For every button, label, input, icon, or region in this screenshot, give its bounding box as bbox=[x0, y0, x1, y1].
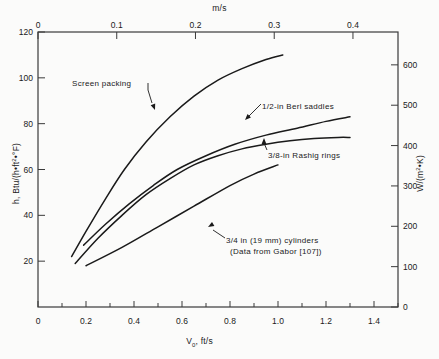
tick-label-left-2: 60 bbox=[24, 165, 33, 175]
curve-label-cylinders: 3/4 in (19 mm) cylinders bbox=[226, 235, 319, 246]
tick-label-bottom-4: 0.8 bbox=[224, 316, 236, 326]
tick-label-left-1: 40 bbox=[24, 210, 33, 220]
arrowhead-screen-packing bbox=[151, 104, 156, 110]
axis-frame bbox=[38, 32, 398, 307]
tick-label-top-0: 0 bbox=[36, 20, 41, 30]
tick-label-top-3: 0.3 bbox=[268, 20, 280, 30]
tick-label-top-4: 0.4 bbox=[347, 20, 359, 30]
arrowhead-cylinders bbox=[208, 222, 214, 227]
tick-label-bottom-3: 0.6 bbox=[176, 316, 188, 326]
figure-container: m/s V0, ft/s h, Btu/(h•ft2•°F) W/(m2•K) … bbox=[0, 0, 439, 359]
tick-label-bottom-6: 1.2 bbox=[320, 316, 332, 326]
tick-label-bottom-0: 0 bbox=[36, 316, 41, 326]
arrowhead-raschig-rings bbox=[262, 138, 267, 144]
tick-label-right-2: 200 bbox=[403, 221, 417, 231]
leader-cylinders bbox=[213, 230, 225, 238]
tick-label-right-4: 400 bbox=[403, 141, 417, 151]
tick-label-bottom-2: 0.4 bbox=[128, 316, 140, 326]
leader-berl-saddles bbox=[249, 104, 261, 116]
tick-label-bottom-1: 0.2 bbox=[80, 316, 92, 326]
tick-label-right-3: 300 bbox=[403, 181, 417, 191]
curve-label-raschig-rings: 3/8-in Rashig rings bbox=[268, 150, 340, 161]
tick-label-top-1: 0.1 bbox=[111, 20, 123, 30]
axis-ticks bbox=[38, 32, 398, 307]
tick-label-right-0: 0 bbox=[403, 302, 408, 312]
tick-label-top-2: 0.2 bbox=[190, 20, 202, 30]
tick-label-left-5: 120 bbox=[19, 27, 33, 37]
tick-label-bottom-5: 1.0 bbox=[272, 316, 284, 326]
tick-label-right-6: 600 bbox=[403, 60, 417, 70]
tick-label-bottom-7: 1.4 bbox=[368, 316, 380, 326]
leader-screen-packing bbox=[148, 83, 152, 103]
plot-area bbox=[0, 0, 439, 359]
curve-label-cylinders-source: (Data from Gabor [107]) bbox=[230, 246, 322, 257]
curve-label-screen-packing: Screen packing bbox=[72, 78, 131, 89]
tick-label-right-5: 500 bbox=[403, 100, 417, 110]
tick-label-left-3: 80 bbox=[24, 119, 33, 129]
annotation-leaders bbox=[148, 83, 267, 238]
tick-label-left-0: 20 bbox=[24, 256, 33, 266]
curve-label-berl-saddles: 1/2-in Berl saddles bbox=[262, 101, 334, 112]
tick-label-right-1: 100 bbox=[403, 262, 417, 272]
curve-series-1 bbox=[84, 117, 350, 245]
tick-label-left-4: 100 bbox=[19, 73, 33, 83]
